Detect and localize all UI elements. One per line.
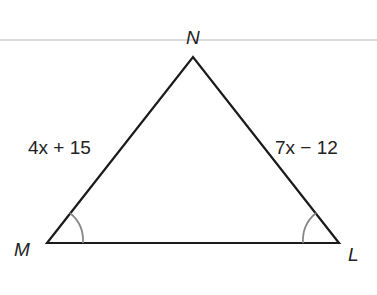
side-label-mn: 4x + 15	[28, 137, 91, 158]
vertex-label-l: L	[348, 244, 359, 265]
angle-mark-m	[70, 213, 83, 243]
side-label-nl: 7x − 12	[275, 137, 338, 158]
vertex-label-m: M	[14, 239, 30, 260]
vertex-label-n: N	[186, 27, 200, 48]
angle-mark-l	[303, 213, 316, 243]
triangle-diagram: N M L 4x + 15 7x − 12	[0, 0, 377, 295]
